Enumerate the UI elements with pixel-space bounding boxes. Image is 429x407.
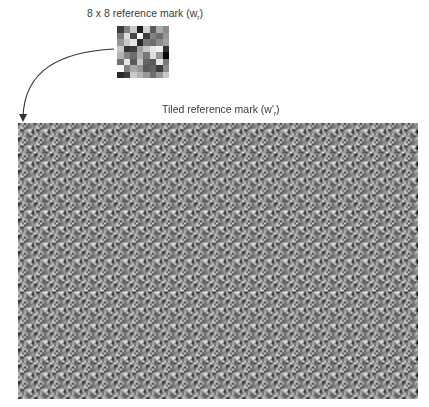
tiled-mark-title-text: Tiled reference mark (w' — [162, 103, 274, 115]
tiled-mark-title: Tiled reference mark (w'r) — [162, 103, 280, 117]
reference-mark-title-suffix: ) — [199, 7, 203, 19]
reference-mark-grid — [117, 26, 169, 78]
reference-mark-title: 8 x 8 reference mark (wr) — [87, 7, 203, 21]
reference-mark-title-text: 8 x 8 reference mark (w — [87, 7, 197, 19]
tiled-mark-title-suffix: ) — [276, 103, 280, 115]
arrow-curve — [23, 49, 114, 118]
tiled-reference-mark-image — [18, 123, 418, 399]
